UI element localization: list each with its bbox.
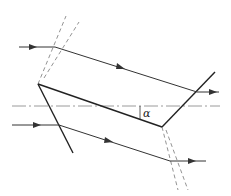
lower-input-arrow-icon [33, 122, 41, 128]
bottom-right-normal-lines [162, 127, 188, 190]
upper-output-arrow-icon [209, 89, 217, 95]
upper-refracted-arrow-icon [116, 63, 125, 69]
lower-refracted-ray [59, 125, 170, 161]
upper-input-arrow-icon [29, 44, 37, 50]
prism-ray-diagram: α [0, 0, 231, 196]
right-face [162, 72, 215, 127]
lower-refracted-arrow-icon [104, 137, 113, 143]
lower-output-arrow-icon [188, 158, 196, 164]
angle-label: α [143, 107, 151, 120]
top-left-normal-lines [38, 16, 79, 84]
upper-refracted-ray [55, 47, 197, 92]
